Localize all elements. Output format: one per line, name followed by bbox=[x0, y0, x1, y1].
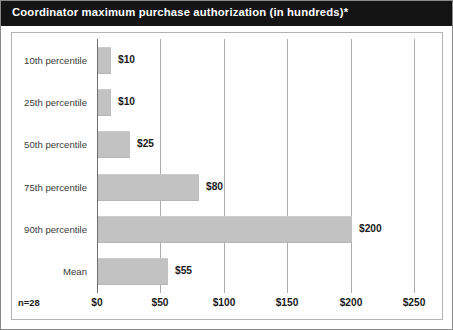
sample-size-annotation: n=28 bbox=[18, 297, 40, 308]
category-label: 50th percentile bbox=[1, 139, 87, 150]
bar-value-label: $25 bbox=[137, 138, 154, 149]
bar-value-label: $80 bbox=[206, 181, 223, 192]
category-label: Mean bbox=[1, 266, 87, 277]
chart-figure: Coordinator maximum purchase authorizati… bbox=[0, 0, 453, 330]
bar-value-label: $200 bbox=[359, 223, 382, 234]
category-label: 90th percentile bbox=[1, 224, 87, 235]
category-label: 25th percentile bbox=[1, 97, 87, 108]
bar bbox=[98, 131, 130, 158]
bar bbox=[98, 216, 352, 243]
bar bbox=[98, 258, 168, 285]
bar-value-label: $10 bbox=[118, 54, 135, 65]
bar-value-label: $55 bbox=[175, 265, 192, 276]
category-label: 75th percentile bbox=[1, 182, 87, 193]
bar bbox=[98, 174, 199, 201]
bars-group: $1010th percentile$1025th percentile$255… bbox=[1, 1, 453, 330]
bar bbox=[98, 47, 111, 74]
bar-value-label: $10 bbox=[118, 96, 135, 107]
category-label: 10th percentile bbox=[1, 55, 87, 66]
bar bbox=[98, 89, 111, 116]
